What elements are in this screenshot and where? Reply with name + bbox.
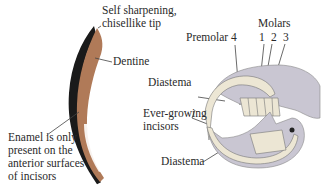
- lower-jaw: [207, 112, 304, 168]
- label-molar-1: 1: [259, 31, 265, 44]
- label-incisors-line-1: Ever-growing: [143, 107, 207, 120]
- label-molar-2: 2: [271, 31, 277, 44]
- label-enamel-line-2: present on the: [8, 144, 84, 157]
- label-enamel: Enamel is only present on the anterior s…: [8, 131, 84, 183]
- label-incisors: Ever-growing incisors: [143, 107, 207, 133]
- label-tip-line-2: chisellike tip: [102, 17, 177, 30]
- label-diastema-upper: Diastema: [148, 76, 191, 89]
- label-premolar-4: Premolar 4: [186, 31, 237, 44]
- label-molar-3: 3: [283, 31, 289, 44]
- lower-molars: [250, 130, 286, 154]
- label-tip-line-1: Self sharpening,: [102, 4, 177, 17]
- label-enamel-line-1: Enamel is only: [8, 131, 84, 144]
- label-enamel-line-3: anterior surfaces: [8, 157, 84, 170]
- label-dentine: Dentine: [113, 55, 149, 68]
- jaw-joint: [290, 128, 295, 133]
- label-incisors-line-2: incisors: [143, 120, 207, 133]
- label-molars: Molars: [258, 17, 291, 30]
- label-enamel-line-4: of incisors: [8, 170, 84, 183]
- label-tip: Self sharpening, chisellike tip: [102, 4, 177, 30]
- label-diastema-lower: Diastema: [161, 155, 204, 168]
- upper-molars: [240, 98, 280, 116]
